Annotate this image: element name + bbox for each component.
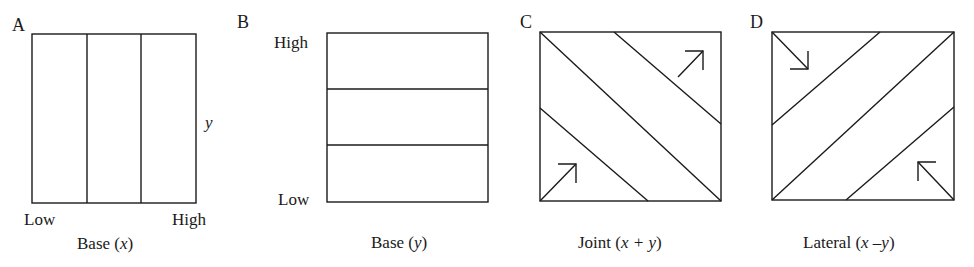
panel-d-letter: D [750, 13, 763, 31]
caption-word: Lateral [803, 233, 851, 252]
panel-c-diagonal-main [540, 32, 721, 201]
panel-d-caption: Lateral (x –y) [803, 234, 895, 251]
panel-c-caption: Joint (x + y) [578, 234, 662, 251]
panel-c-diagonal-lower [540, 108, 648, 201]
caption-word: Joint [578, 233, 611, 252]
panel-a-low-label: Low [24, 211, 55, 228]
arrow-northwest-icon [918, 162, 954, 200]
caption-var: y [414, 233, 422, 252]
arrow-northeast-icon [540, 164, 576, 201]
panel-a-caption: Base (x) [77, 235, 133, 252]
panel-b-letter: B [237, 13, 249, 31]
panel-b-frame [327, 33, 488, 202]
caption-paren: ) [656, 233, 662, 252]
panel-a-letter: A [12, 16, 25, 34]
caption-word: Base [77, 234, 110, 253]
caption-var: x [120, 234, 128, 253]
panel-c-letter: C [520, 13, 532, 31]
caption-paren: ) [128, 234, 134, 253]
panel-d-diagonal-upper [772, 32, 880, 125]
panel-c-diagram [540, 32, 721, 201]
panel-a-frame [32, 34, 196, 203]
caption-paren: ) [889, 233, 895, 252]
panel-b-high-label: High [274, 34, 308, 51]
panel-b-diagram [327, 33, 488, 202]
arrow-northeast-icon [678, 51, 703, 77]
panel-a-diagram [32, 34, 196, 203]
panel-a-high-label: High [172, 211, 206, 228]
panel-d-diagonal-lower [846, 107, 954, 200]
caption-word: Base [371, 233, 404, 252]
panel-b-caption: Base (y) [371, 234, 427, 251]
caption-paren: ) [422, 233, 428, 252]
caption-var: x + y [621, 233, 656, 252]
caption-var: x –y [861, 233, 889, 252]
panel-d-diagonal-main [772, 32, 954, 200]
panel-d-diagram [772, 32, 954, 200]
panel-a-y-axis-label: y [205, 114, 213, 131]
panel-c-diagonal-upper [614, 32, 721, 124]
panel-b-low-label: Low [278, 191, 309, 208]
arrow-southeast-icon [772, 32, 808, 69]
figure-canvas [0, 0, 974, 267]
